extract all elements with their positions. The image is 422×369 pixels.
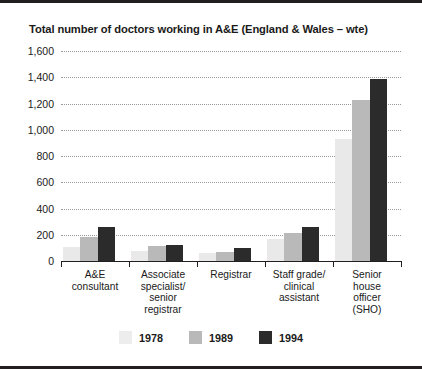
chart-figure: Total number of doctors working in A&E (… — [0, 0, 422, 369]
bar — [352, 100, 370, 261]
bar — [131, 251, 149, 262]
x-axis-tick — [333, 261, 334, 267]
bar-group — [267, 51, 320, 261]
x-axis-category-label: A&E consultant — [61, 269, 129, 292]
x-axis-category-label: Associate specialist/ senior registrar — [129, 269, 197, 315]
x-axis-tick — [197, 261, 198, 267]
y-axis-tick-label: 800 — [36, 150, 54, 162]
x-axis-tick — [401, 261, 402, 267]
bar — [302, 227, 320, 261]
bar — [148, 246, 166, 261]
legend-item: 1989 — [189, 331, 233, 344]
x-axis-category-label: Staff grade/ clinical assistant — [265, 269, 333, 304]
y-axis-tick-label: 400 — [36, 203, 54, 215]
legend-item: 1978 — [119, 331, 163, 344]
y-axis-tick-label: 200 — [36, 229, 54, 241]
legend-swatch-icon — [259, 331, 272, 344]
y-axis-tick-label: 0 — [48, 255, 54, 267]
y-axis-tick-labels: 02004006008001,0001,2001,4001,600 — [8, 51, 54, 261]
bar — [370, 79, 388, 261]
bar — [98, 227, 116, 261]
bar — [199, 253, 217, 261]
bar — [216, 252, 234, 261]
legend-swatch-icon — [189, 331, 202, 344]
chart-legend: 197819891994 — [0, 331, 422, 344]
legend-item: 1994 — [259, 331, 303, 344]
bar-group — [131, 51, 184, 261]
y-axis-tick-label: 1,200 — [28, 98, 54, 110]
legend-label: 1994 — [279, 332, 303, 344]
chart-title: Total number of doctors working in A&E (… — [29, 23, 368, 35]
x-axis-tick — [265, 261, 266, 267]
legend-swatch-icon — [119, 331, 132, 344]
bar — [267, 239, 285, 261]
bar — [234, 248, 252, 261]
bar — [166, 245, 184, 261]
bar-group — [335, 51, 388, 261]
x-axis-line — [61, 261, 401, 262]
bar-group — [199, 51, 252, 261]
y-axis-tick-label: 1,600 — [28, 45, 54, 57]
bar — [80, 237, 98, 261]
y-axis-tick-label: 1,000 — [28, 124, 54, 136]
bar — [284, 233, 302, 261]
y-axis-tick-label: 1,400 — [28, 71, 54, 83]
legend-label: 1978 — [139, 332, 163, 344]
bar-group — [63, 51, 116, 261]
bar — [335, 139, 353, 261]
x-axis-category-label: Senior house officer (SHO) — [333, 269, 401, 315]
legend-label: 1989 — [209, 332, 233, 344]
x-axis-category-label: Registrar — [197, 269, 265, 281]
x-axis-tick — [61, 261, 62, 267]
plot-area — [61, 51, 401, 261]
bar — [63, 247, 81, 261]
x-axis-tick — [129, 261, 130, 267]
y-axis-tick-label: 600 — [36, 176, 54, 188]
